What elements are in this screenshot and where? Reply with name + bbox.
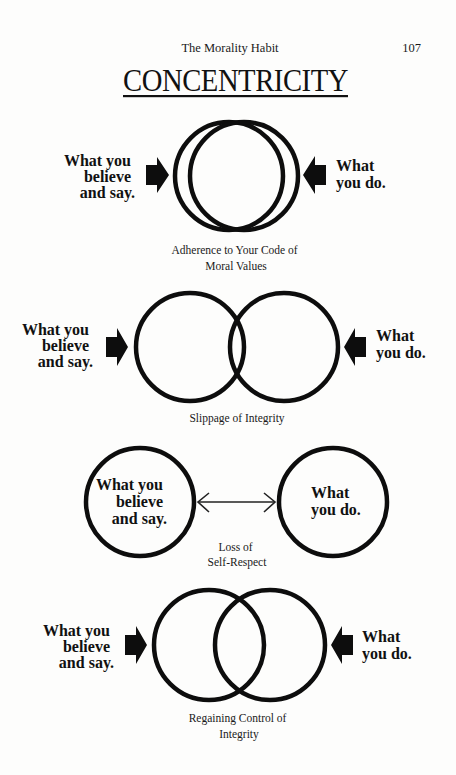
caption: Loss of Self-Respect <box>208 541 268 569</box>
caption: Regaining Control of Integrity <box>189 712 290 741</box>
block-arrow-left-icon <box>331 626 353 664</box>
caption: Adherence to Your Code of Moral Values <box>171 244 300 272</box>
diagram-regaining: What you believe and say. What you do. R… <box>43 590 412 741</box>
block-arrow-right-icon <box>146 157 169 193</box>
page-title: CONCENTRICITY <box>123 62 348 98</box>
left-label: What you believe and say. <box>22 321 93 371</box>
belief-circle <box>154 590 264 700</box>
left-label: What you believe and say. <box>43 622 114 672</box>
running-head: The Morality Habit <box>181 41 279 55</box>
block-arrow-right-icon <box>106 328 128 366</box>
caption: Slippage of Integrity <box>189 412 284 425</box>
diagram-adherence: What you believe and say. What you do. A… <box>64 122 386 272</box>
diagram-slippage: What you believe and say. What you do. S… <box>22 293 426 425</box>
page-canvas: The Morality Habit 107 CONCENTRICITY Wha… <box>0 0 456 775</box>
diagram-loss: What you believe and say. What you do. L… <box>86 448 387 569</box>
double-arrow-icon <box>198 493 275 512</box>
block-arrow-left-icon <box>303 156 326 194</box>
action-label: What you do. <box>311 484 361 519</box>
block-arrow-left-icon <box>344 328 366 366</box>
action-circle <box>215 590 325 700</box>
right-label: What you do. <box>376 327 426 362</box>
right-label: What you do. <box>336 157 386 192</box>
book-page: The Morality Habit 107 CONCENTRICITY Wha… <box>0 0 456 775</box>
left-label: What you believe and say. <box>64 152 135 202</box>
right-label: What you do. <box>362 628 412 663</box>
block-arrow-right-icon <box>125 626 147 664</box>
page-number: 107 <box>402 41 421 55</box>
belief-label: What you believe and say. <box>96 476 167 528</box>
title-underline <box>123 95 348 97</box>
